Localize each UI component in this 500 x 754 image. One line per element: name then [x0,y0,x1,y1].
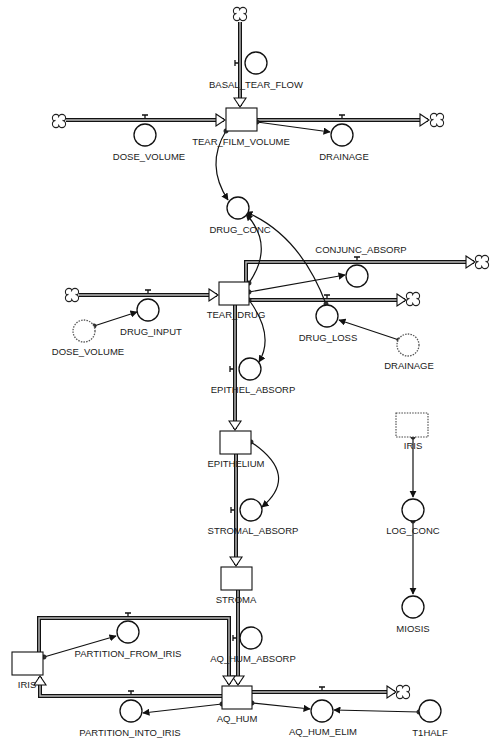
valve-icon[interactable] [354,257,360,260]
converter-label: DOSE_VOLUME [52,346,124,357]
converter-label: PARTITION_INTO_IRIS [79,727,180,738]
connector-aqhum-elim[interactable] [250,701,310,709]
converter-label: AQ_HUM_ELIM [289,726,357,737]
flow-arrowhead-icon [230,557,242,566]
stock-label: TEAR_DRUG [207,309,266,320]
valve-icon[interactable] [235,60,238,66]
converter-partition-from-iris[interactable]: PARTITION_FROM_IRIS [75,621,182,659]
converter-miosis[interactable]: MIOSIS [396,596,429,634]
cloud-icon [233,7,246,20]
converter-log-conc[interactable]: LOG_CONC [386,499,439,536]
cloud-icon [475,255,488,268]
converter-basal-tear-flow[interactable]: BASAL_TEAR_FLOW [209,52,303,90]
flow-into-iris[interactable] [34,676,222,696]
converter-label: LOG_CONC [386,525,439,536]
converter-aq-hum-absorp[interactable]: AQ_HUM_ABSORP [210,627,296,664]
connector-drug-conjunc[interactable] [247,275,345,294]
converter-label: DOSE_VOLUME [113,151,185,162]
converter-label: T1HALF [412,727,448,738]
converter-aq-hum-elim[interactable]: AQ_HUM_ELIM [289,700,357,737]
flow-basal[interactable] [234,22,246,107]
stocks-layer: TEAR_FILM_VOLUMETEAR_DRUGEPITHELIUMSTROM… [12,108,428,724]
converter-label: MIOSIS [396,623,429,634]
converter-label: AQ_HUM_ABSORP [210,653,296,664]
connector-epith-stromal[interactable] [249,440,279,507]
valve-icon[interactable] [231,507,234,513]
flow-arrowhead-icon [229,421,241,430]
flow-arrowhead-icon [209,289,218,301]
stock-label: STROMA [216,594,257,605]
converter-stromal-absorp[interactable]: STROMAL_ABSORP [208,499,299,536]
flow-arrowhead-icon [420,114,429,126]
converter-label: DRUG_LOSS [299,332,358,343]
stock-label: EPITHELIUM [207,458,264,469]
valve-icon[interactable] [324,295,330,298]
stock-label: AQ_HUM [217,713,258,724]
converter-dose-volume-1[interactable]: DOSE_VOLUME [113,124,185,162]
converter-partition-into-iris[interactable]: PARTITION_INTO_IRIS [79,700,180,738]
stock-label: IRIS [18,679,36,690]
cloud-icon [396,685,409,698]
valve-icon[interactable] [230,366,233,372]
stock-aq-hum[interactable]: AQ_HUM [217,686,258,724]
converter-drug-loss[interactable]: DRUG_LOSS [299,305,358,343]
stock-label: IRIS [404,440,422,451]
stock-epithelium[interactable]: EPITHELIUM [207,431,264,469]
valve-icon[interactable] [125,613,131,616]
converter-label: EPITHEL_ABSORP [211,384,295,395]
flow-arrowhead-icon [466,256,475,268]
valve-icon[interactable] [142,115,148,118]
flow-arrowhead-icon [223,676,235,685]
converter-label: DRAINAGE [384,360,434,371]
converter-label: STROMAL_ABSORP [208,525,299,536]
flow-arrowhead-icon [387,686,396,698]
diagram-canvas: TEAR_FILM_VOLUMETEAR_DRUGEPITHELIUMSTROM… [0,0,500,754]
cloud-icon [430,113,443,126]
stock-flow-diagram: TEAR_FILM_VOLUMETEAR_DRUGEPITHELIUMSTROM… [0,0,500,754]
converters-layer: BASAL_TEAR_FLOWDOSE_VOLUMEDRAINAGEDRUG_C… [52,52,448,738]
flow-aq-elim[interactable] [252,686,396,698]
connector-drug-epithel[interactable] [247,298,265,362]
flow-arrowhead-icon [234,98,246,107]
stock-label: TEAR_FILM_VOLUME [192,136,290,147]
stock-stroma[interactable]: STROMA [216,567,257,605]
converter-label: CONJUNC_ABSORP [315,244,406,255]
converter-conjunc-absorp[interactable]: CONJUNC_ABSORP [315,244,406,287]
valve-icon[interactable] [145,290,151,293]
stock-iris-ghost[interactable]: IRIS [396,413,428,451]
valve-icon[interactable] [233,635,236,641]
connector-t1half-elim[interactable] [334,710,421,714]
cloud-icon [65,288,78,301]
converter-label: DRAINAGE [319,151,369,162]
converter-epithel-absorp[interactable]: EPITHEL_ABSORP [211,358,295,395]
converter-dose-volume-2[interactable]: DOSE_VOLUME [52,320,124,357]
cloud-icon [406,292,419,305]
converter-label: PARTITION_FROM_IRIS [75,648,182,659]
converter-label: DRUG_CONC [209,224,270,235]
converter-drainage-1[interactable]: DRAINAGE [319,124,369,162]
connector-aqhum-partinto[interactable] [143,702,224,713]
valve-icon[interactable] [128,691,134,694]
flow-arrowhead-icon [216,114,225,126]
valve-icon[interactable] [319,687,325,690]
converter-drug-input[interactable]: DRUG_INPUT [120,299,182,337]
flow-arrowhead-icon [397,294,406,306]
valve-icon[interactable] [339,115,345,118]
converter-drainage-2[interactable]: DRAINAGE [384,334,434,371]
converter-label: BASAL_TEAR_FLOW [209,79,303,90]
cloud-icon [52,114,65,127]
converter-drug-conc[interactable]: DRUG_CONC [209,197,270,235]
converter-t1half[interactable]: T1HALF [412,700,448,738]
converter-label: DRUG_INPUT [120,326,182,337]
stock-tear-film-volume[interactable]: TEAR_FILM_VOLUME [192,108,290,147]
